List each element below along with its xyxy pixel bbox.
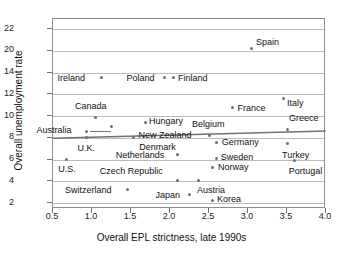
data-point-label: Sweden	[221, 153, 254, 162]
data-point-label: Canada	[75, 102, 107, 111]
data-point-label: Italy	[287, 99, 304, 108]
x-tick-label: 4.0	[308, 212, 342, 221]
data-point-label: Japan	[156, 191, 181, 200]
data-point-label: Ireland	[57, 74, 85, 83]
data-point-label: France	[237, 104, 265, 113]
data-point-label: New Zealand	[139, 131, 192, 140]
data-point[interactable]	[286, 128, 289, 131]
data-point-label: Portugal	[289, 167, 323, 176]
y-tick-label: 22	[0, 24, 14, 33]
data-point-label: Korea	[217, 195, 241, 204]
y-tick-label: 4	[0, 176, 14, 185]
data-point[interactable]	[144, 121, 147, 124]
x-tick-label: 2.5	[191, 212, 225, 221]
data-point[interactable]	[231, 106, 234, 109]
leader-line	[90, 131, 110, 132]
data-point-label: U.K.	[78, 144, 96, 153]
data-point-label: Australia	[37, 126, 72, 135]
data-point-label: Turkey	[282, 151, 309, 160]
x-tick-label: 1.5	[113, 212, 147, 221]
data-point[interactable]	[132, 136, 135, 139]
data-point[interactable]	[176, 153, 179, 156]
data-point-label: Finland	[178, 74, 208, 83]
data-point-label: Poland	[127, 74, 155, 83]
y-tick-label: 20	[0, 45, 14, 54]
y-tick-label: 10	[0, 111, 14, 120]
data-point-label: Hungary	[149, 117, 183, 126]
x-tick-label: 1.0	[74, 212, 108, 221]
data-point-label: Czech Republic	[100, 167, 163, 176]
data-point-label: Greece	[289, 114, 319, 123]
x-tick-label: 0.5	[35, 212, 69, 221]
y-tick-label: 14	[0, 67, 14, 76]
x-tick-label: 2.0	[152, 212, 186, 221]
data-point-label: Belgium	[192, 120, 225, 129]
y-tick-label: 6	[0, 154, 14, 163]
data-point-label: Switzerland	[65, 186, 112, 195]
y-tick-label: 2	[0, 198, 14, 207]
x-tick-label: 3.0	[230, 212, 264, 221]
x-tick-label: 3.5	[269, 212, 303, 221]
data-point[interactable]	[282, 97, 285, 100]
data-point[interactable]	[215, 141, 218, 144]
data-point-label: Germany	[222, 138, 259, 147]
data-point[interactable]	[126, 188, 129, 191]
scatter-chart-figure: Overall unemployment rate Overall EPL st…	[0, 0, 343, 256]
data-point-label: Netherlands	[116, 151, 165, 160]
y-axis-title: Overall unemployment rate	[13, 26, 24, 196]
trend-line	[53, 19, 326, 209]
data-point[interactable]	[65, 158, 68, 161]
data-point[interactable]	[208, 134, 211, 137]
data-point[interactable]	[286, 142, 289, 145]
data-point-label: Spain	[256, 38, 279, 47]
data-point[interactable]	[85, 130, 88, 133]
plot-area: U.S.IrelandAustraliaU.K.CanadaNew Zealan…	[52, 18, 325, 208]
data-point[interactable]	[85, 136, 88, 139]
y-tick-label: 12	[0, 89, 14, 98]
y-tick-label: 8	[0, 132, 14, 141]
data-point-label: U.S.	[58, 165, 76, 174]
x-axis-title: Overall EPL strictness, late 1990s	[0, 232, 343, 243]
data-point-label: Norway	[218, 163, 249, 172]
